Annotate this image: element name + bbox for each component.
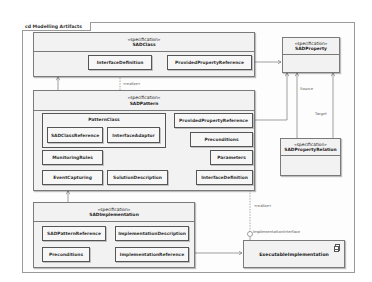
class-name: SADPattern xyxy=(34,101,254,107)
solution-description[interactable]: SolutionDescription xyxy=(107,170,168,185)
interface-adaptor[interactable]: InterfaceAdaptor xyxy=(107,127,160,143)
sad-property-header: «specification» SADProperty xyxy=(283,38,339,55)
realize-label-1: «realize» xyxy=(123,81,140,86)
sad-implementation-header: «specification» SADImplementation xyxy=(34,203,194,222)
implementation-interface-label: ImplementationInterface xyxy=(253,229,300,234)
sad-pattern-reference[interactable]: SADPatternReference xyxy=(42,226,106,241)
component-icon xyxy=(335,244,340,251)
sad-class-interface-definition[interactable]: InterfaceDefinition xyxy=(88,55,152,70)
executable-implementation[interactable]: ExecutableImplementation xyxy=(243,240,345,268)
sad-implementation-preconditions[interactable]: Preconditions xyxy=(42,247,90,262)
sad-property-relation[interactable]: «specification» SADPropertyRelation xyxy=(280,138,341,176)
implementation-description[interactable]: ImplementationDescription xyxy=(115,226,189,241)
event-capturing[interactable]: EventCapturing xyxy=(42,170,103,185)
class-name: SADPropertyRelation xyxy=(281,147,340,153)
pattern-class-title: PatternClass xyxy=(43,117,165,122)
component-name: ExecutableImplementation xyxy=(259,252,329,257)
diagram-canvas: cd Modelling Artifacts xyxy=(0,0,372,282)
realize-label-2: «realize» xyxy=(254,203,271,208)
sad-pattern-provided-property-reference[interactable]: ProvidedPropertyReference xyxy=(174,113,253,128)
monitoring-rules[interactable]: MonitoringRules xyxy=(42,150,103,165)
sad-class-provided-property-reference[interactable]: ProvidedPropertyReference xyxy=(167,55,252,70)
target-label: Target xyxy=(315,111,327,116)
sad-pattern-preconditions[interactable]: Preconditions xyxy=(190,132,253,147)
source-label: Source xyxy=(300,86,313,91)
sad-pattern-header: «specification» SADPattern xyxy=(34,91,254,111)
sad-pattern-interface-definition[interactable]: InterfaceDefinition xyxy=(196,170,253,185)
sad-property[interactable]: «specification» SADProperty xyxy=(282,37,340,73)
class-name: SADImplementation xyxy=(34,212,194,218)
parameters[interactable]: Parameters xyxy=(210,150,253,165)
sad-class-header: «specification» SADClass xyxy=(34,33,254,52)
implementation-reference[interactable]: ImplementationReference xyxy=(115,247,189,262)
sad-class-reference[interactable]: SADClassReference xyxy=(47,127,103,143)
class-name: SADClass xyxy=(34,42,254,48)
sad-property-relation-header: «specification» SADPropertyRelation xyxy=(281,139,340,156)
class-name: SADProperty xyxy=(283,46,339,52)
